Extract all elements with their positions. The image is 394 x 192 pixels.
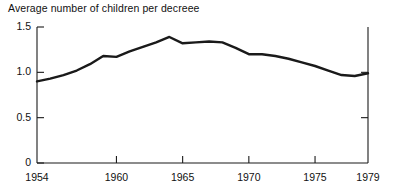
axis-lines	[37, 27, 368, 163]
x-axis-tick-label: 1960	[96, 171, 136, 183]
data-series-group	[37, 37, 368, 81]
plot-canvas	[0, 0, 394, 192]
x-axis-tick-label: 1970	[229, 171, 269, 183]
x-axis-tick-label: 1975	[295, 171, 335, 183]
data-line	[37, 37, 368, 81]
y-axis-tick-label: 0.5	[3, 111, 31, 123]
y-axis-tick-label: 1.5	[3, 20, 31, 32]
y-axis-tick-marks	[37, 27, 368, 163]
chart-figure: Average number of children per decreee 1…	[0, 0, 394, 192]
x-axis-tick-marks	[116, 156, 315, 163]
y-axis-tick-label: 0	[3, 156, 31, 168]
y-axis-tick-label: 1.0	[3, 65, 31, 77]
x-axis-tick-label: 1965	[163, 171, 203, 183]
x-axis-tick-label: 1979	[348, 171, 388, 183]
x-axis-tick-label: 1954	[17, 171, 57, 183]
